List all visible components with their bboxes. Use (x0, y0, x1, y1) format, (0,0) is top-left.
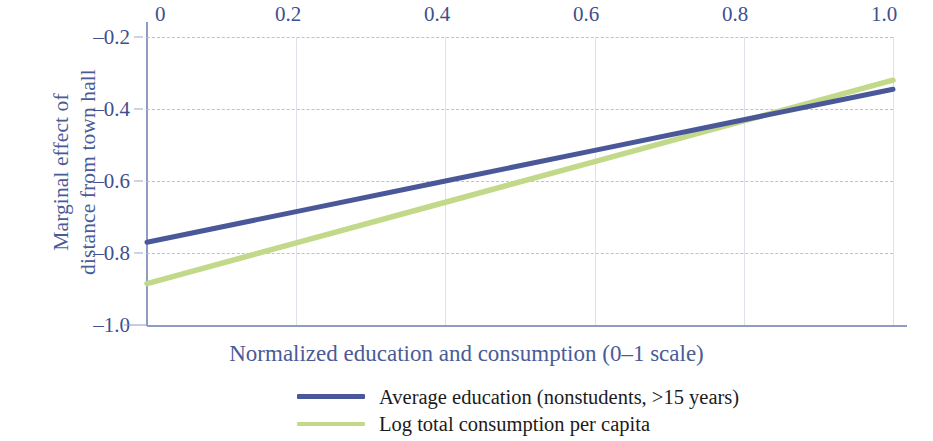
x-tick-label-1: 0.2 (275, 3, 301, 25)
plot-area (147, 37, 893, 325)
y-tick-dash-3 (134, 253, 143, 254)
y-tick-label-0: –0.2 (58, 27, 130, 48)
y-tick-label-4: –1.0 (58, 315, 130, 336)
legend-label-average-education: Average education (nonstudents, >15 year… (379, 385, 739, 409)
y-tick-label-1: –0.4 (58, 99, 130, 120)
x-axis-title: Normalized education and consumption (0–… (0, 339, 933, 369)
chart-legend: Average education (nonstudents, >15 year… (0, 383, 933, 437)
x-tick-label-0: 0 (155, 3, 166, 25)
legend-item-average-education: Average education (nonstudents, >15 year… (297, 383, 739, 410)
x-tick-label-3: 0.6 (573, 3, 599, 25)
y-tick-dash-1 (134, 109, 143, 110)
legend-swatch-icon-average-education (297, 394, 365, 399)
legend-label-log-consumption: Log total consumption per capita (379, 412, 650, 436)
series-lines (147, 37, 893, 325)
legend-item-log-consumption: Log total consumption per capita (297, 410, 650, 437)
x-tick-label-5: 1.0 (871, 3, 897, 25)
y-tick-label-2: –0.6 (58, 171, 130, 192)
chart-figure: Marginal effect of distance from town ha… (0, 0, 933, 441)
y-tick-dash-2 (134, 181, 143, 182)
y-axis-tick-group: –0.2 –0.4 –0.6 –0.8 –1.0 (58, 0, 130, 441)
x-tick-label-2: 0.4 (424, 3, 450, 25)
legend-swatch-icon-log-consumption (297, 422, 365, 426)
series-line-log-consumption (147, 89, 893, 242)
y-tick-dash-0 (134, 37, 143, 38)
x-axis-line (147, 325, 907, 327)
y-tick-dash-4 (124, 325, 146, 326)
x-tick-label-4: 0.8 (722, 3, 748, 25)
y-tick-label-3: –0.8 (58, 243, 130, 264)
